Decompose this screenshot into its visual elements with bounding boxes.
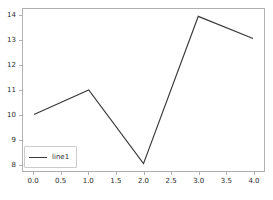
data-line-line1 [34, 16, 253, 163]
x-tick-mark [61, 172, 62, 175]
x-tick-label: 3.5 [221, 178, 232, 185]
y-tick-label: 8 [0, 161, 16, 168]
y-tick-label: 14 [0, 12, 16, 19]
y-tick-label: 9 [0, 136, 16, 143]
x-tick-mark [88, 172, 89, 175]
x-tick-label: 2.0 [138, 178, 149, 185]
y-tick-label: 13 [0, 37, 16, 44]
x-tick-mark [116, 172, 117, 175]
x-tick-mark [254, 172, 255, 175]
x-tick-label: 3.0 [193, 178, 204, 185]
x-tick-label: 0.5 [55, 178, 66, 185]
legend-entry-label: line1 [52, 154, 69, 161]
x-tick-mark [171, 172, 172, 175]
x-tick-label: 1.5 [110, 178, 121, 185]
x-tick-label: 0.0 [27, 178, 38, 185]
x-tick-mark [199, 172, 200, 175]
legend[interactable]: line1 [24, 146, 77, 168]
legend-line-swatch [29, 157, 47, 158]
figure-canvas: 891011121314 0.00.51.01.52.02.53.03.54.0… [0, 0, 273, 200]
x-tick-label: 2.5 [166, 178, 177, 185]
x-tick-mark [226, 172, 227, 175]
x-tick-label: 4.0 [248, 178, 259, 185]
y-tick-label: 10 [0, 111, 16, 118]
y-tick-label: 12 [0, 62, 16, 69]
x-tick-mark [144, 172, 145, 175]
x-tick-label: 1.0 [83, 178, 94, 185]
y-tick-label: 11 [0, 87, 16, 94]
x-tick-mark [33, 172, 34, 175]
